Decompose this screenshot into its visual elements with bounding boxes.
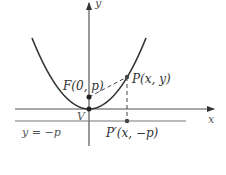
y-axis-label: y [94, 0, 102, 10]
focus-point [87, 95, 92, 100]
directrix-label: y = −p [21, 126, 61, 139]
focus-label: F(0, p) [62, 79, 104, 93]
x-axis-label: x [208, 113, 215, 126]
projection-point [125, 119, 129, 123]
point-label: P(x, y) [131, 72, 171, 86]
curve-point [125, 75, 129, 79]
projection-label: P′(x, −p) [105, 126, 159, 140]
vertex-point [87, 107, 92, 112]
vertex-label: V [77, 110, 86, 123]
parabola-diagram: y x y = −p F(0, p) P(x, y) V P′(x, −p) [0, 0, 226, 175]
